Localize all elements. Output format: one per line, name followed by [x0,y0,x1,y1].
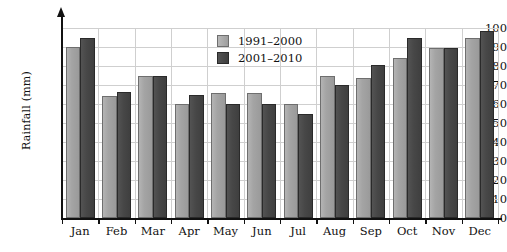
gridline-vertical [462,28,463,218]
x-axis-tick-label: Dec [469,224,491,238]
gridline-vertical [389,28,390,218]
x-axis-tick-mark [171,219,172,224]
bar [480,31,495,218]
x-axis-tick-label: Oct [397,224,418,238]
bar [247,93,262,218]
x-axis-line [61,218,502,220]
x-axis-tick-label: Nov [432,224,455,238]
x-axis-tick-mark [462,219,463,224]
bar [320,76,335,218]
x-axis-tick-label: May [213,224,238,238]
gridline-vertical [353,28,354,218]
bar [138,76,153,218]
gridline-vertical [135,28,136,218]
bar [335,85,350,218]
bar [407,38,422,219]
x-axis-tick-label: Jun [252,224,271,238]
x-axis-tick-mark [389,219,390,224]
legend-label-1: 2001–2010 [238,51,302,65]
bar [153,76,168,218]
gridline-vertical [498,28,499,218]
gridline-vertical [207,28,208,218]
bar [262,104,277,218]
x-axis-tick-label: Sep [360,224,382,238]
x-axis-tick-mark [280,219,281,224]
bar [189,95,204,219]
legend-swatch-icon-1 [217,52,229,64]
bar [356,78,371,218]
x-axis-tick-mark [316,219,317,224]
x-axis-tick-mark [425,219,426,224]
gridline-vertical [98,28,99,218]
x-axis-tick-label: Jan [71,224,90,238]
x-axis-tick-label: Aug [323,224,346,238]
bar [298,114,313,219]
bar [284,104,299,218]
gridline-vertical [425,28,426,218]
bar [429,48,444,218]
legend-item-0: 1991–2000 [217,32,302,49]
x-axis-tick-label: Mar [141,224,165,238]
x-axis-tick-mark [135,219,136,224]
bar [102,96,117,218]
x-axis-tick-mark [244,219,245,224]
bar [211,93,226,218]
gridline-vertical [316,28,317,218]
legend-swatch-icon-0 [217,35,229,47]
x-axis-tick-mark [207,219,208,224]
x-axis-tick-label: Feb [106,224,128,238]
bar [465,38,480,218]
x-axis-tick-mark [353,219,354,224]
x-axis-tick-label: Jul [290,224,306,238]
x-axis-tick-mark [62,219,63,224]
bar [371,65,386,218]
x-axis-tick-mark [498,219,499,224]
bar [393,58,408,218]
legend: 1991–2000 2001–2010 [212,30,308,69]
bar [117,92,132,218]
bar [66,47,81,218]
y-axis-title: Rainfall (mm) [20,41,33,181]
legend-item-1: 2001–2010 [217,49,302,66]
bar [444,48,459,218]
bar [175,104,190,218]
bar [80,38,95,219]
gridline-vertical [171,28,172,218]
y-axis-arrow-icon [57,7,65,17]
legend-label-0: 1991–2000 [238,34,302,48]
y-axis-line [61,14,63,219]
bar [226,104,241,218]
rainfall-bar-chart: Rainfall (mm) 0102030405060708090100 Jan… [0,0,507,252]
x-axis-tick-mark [98,219,99,224]
x-axis-tick-label: Apr [179,224,200,238]
